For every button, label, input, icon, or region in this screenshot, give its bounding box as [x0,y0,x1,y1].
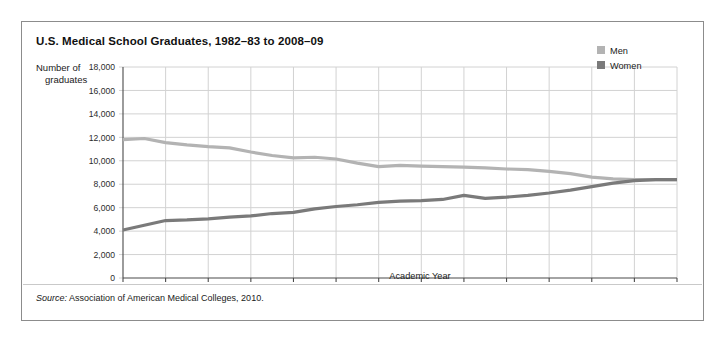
footer-divider [23,284,702,285]
legend-swatch-men [597,46,605,54]
y-axis-tick-label: 2,000 [93,250,115,260]
legend-label-women: Women [610,61,642,71]
source-label: Source: [36,293,67,303]
y-axis-tick-label: 14,000 [89,109,116,119]
legend-swatch-women [597,61,605,69]
y-axis-tick-label: 16,000 [89,86,116,96]
figure-card: U.S. Medical School Graduates, 1982–83 t… [21,21,704,321]
y-axis-tick-label: 10,000 [89,156,116,166]
y-axis-tick-label: 8,000 [93,179,115,189]
line-chart: 18,00016,00014,00012,00010,0008,0006,000… [22,22,705,284]
series-line-men [123,139,677,180]
y-axis-tick-label: 18,000 [89,62,116,72]
source-text: Association of American Medical Colleges… [67,293,264,303]
y-axis-tick-label: 6,000 [93,203,115,213]
y-axis-tick-labels: 18,00016,00014,00012,00010,0008,0006,000… [89,62,116,283]
chart-legend: MenWomen [597,46,642,71]
legend-label-men: Men [610,46,628,56]
y-axis-tick-label: 0 [110,273,115,283]
y-axis-tick-label: 4,000 [93,226,115,236]
series-line-women [123,180,677,230]
gridlines [119,67,677,278]
x-axis-title: Academic Year [389,271,450,281]
axes [123,67,677,278]
y-axis-tick-label: 12,000 [89,133,116,143]
source-note: Source: Association of American Medical … [36,293,264,303]
